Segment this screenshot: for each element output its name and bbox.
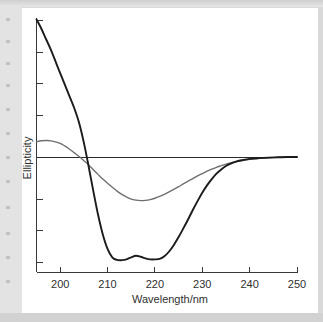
page-scan-edge-bottom [0,313,323,322]
scan-artifact [6,132,10,135]
x-axis-label: Wavelength/nm [132,293,208,305]
scan-artifact [6,206,10,209]
x-axis-ticks [60,267,297,273]
scan-artifact [6,232,10,235]
scan-artifact [6,280,10,283]
x-axis-tick-label: 200 [51,278,69,290]
x-axis-tick-labels: 200210220230240250 [51,278,306,290]
figure-panel: 200210220230240250 Ellipticity Wavelengt… [22,8,318,313]
x-axis-tick-label: 210 [98,278,116,290]
scan-artifact [6,62,10,65]
x-axis-tick-label: 240 [240,278,258,290]
scan-artifact [6,84,10,87]
y-axis-label: Ellipticity [22,136,33,179]
cd-spectrum-chart: 200210220230240250 Ellipticity Wavelengt… [22,8,318,313]
curve-alpha-helix [37,19,298,260]
page-scan-edge-left [0,0,22,322]
x-axis-tick-label: 220 [146,278,164,290]
scan-artifact [6,156,10,159]
scan-artifact [6,180,10,183]
scan-artifact [6,256,10,259]
x-axis-tick-label: 250 [288,278,306,290]
curve-beta-sheet [37,140,298,200]
scan-artifact [6,40,10,43]
scan-artifact [6,18,10,21]
scan-artifact [6,108,10,111]
x-axis-tick-label: 230 [193,278,211,290]
page-scan-edge-top [0,0,323,7]
